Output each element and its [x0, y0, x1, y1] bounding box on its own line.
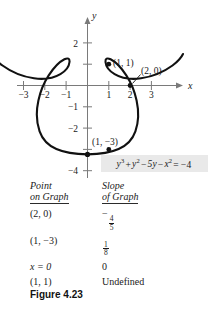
label-point-2-0: (2, 0) [141, 66, 162, 77]
row0-slope-sign: − [102, 208, 108, 219]
x-tick-label-1: 1 [106, 90, 111, 100]
row2-point: x = 0 [30, 257, 102, 273]
marker-point-1-neg3 [106, 147, 111, 152]
header-slope-line2: of Graph [102, 192, 138, 205]
table-header-point: Point on Graph [30, 181, 102, 204]
x-axis-arrow [176, 83, 183, 89]
header-slope-line1: Slope [102, 181, 202, 192]
x-tick-label--3: −3 [18, 90, 28, 100]
row1-slope: 18 [102, 231, 202, 257]
marker-point-1-1 [106, 62, 111, 67]
row2-slope: 0 [102, 257, 202, 273]
y-axis-arrow [85, 17, 91, 24]
row3-point: (1, 1) [30, 272, 102, 288]
y-tick-label--4: −4 [68, 166, 78, 176]
point-labels-group: (1, 1) (2, 0) (1, −3) [92, 58, 162, 148]
label-point-1-neg3: (1, −3) [92, 137, 118, 148]
x-tick-label-2: 2 [128, 90, 133, 100]
row3-slope: Undefined [102, 272, 202, 288]
table-header-slope: Slope of Graph [102, 181, 202, 204]
y-tick-label--1: −1 [68, 102, 78, 112]
header-point-line2: on Graph [30, 192, 69, 205]
table-row: (2, 0) −45 [30, 204, 210, 231]
slope-table: Point on Graph Slope of Graph (2, 0) −45… [30, 181, 210, 288]
graph-canvas: −3 −2 −1 1 2 3 2 −1 −2 −4 x y [0, 0, 215, 185]
table-header-row: Point on Graph Slope of Graph [30, 181, 210, 204]
figure-caption: Figure 4.23 [30, 289, 83, 300]
row1-point: (1, −3) [30, 231, 102, 247]
equation-text: y3+y2−5y−x2=−4 [117, 157, 193, 169]
header-point-line1: Point [30, 181, 102, 192]
row0-slope: −45 [102, 204, 202, 231]
x-axis-label: x [187, 80, 193, 91]
y-tick-label--2: −2 [68, 124, 78, 134]
x-tick-label--1: −1 [61, 90, 71, 100]
table-row: x = 0 0 [30, 257, 210, 273]
table-row: (1, −3) 18 [30, 231, 210, 257]
marker-point-0-bottom [85, 152, 90, 157]
y-axis-label: y [91, 10, 97, 21]
y-tick-label-2: 2 [73, 39, 78, 49]
table-row: (1, 1) Undefined [30, 272, 210, 288]
row0-point: (2, 0) [30, 204, 102, 220]
figure-4-23: −3 −2 −1 1 2 3 2 −1 −2 −4 x y [0, 0, 215, 312]
equation-callout: y3+y2−5y−x2=−4 [101, 155, 208, 172]
x-tick-label-3: 3 [149, 90, 154, 100]
row0-slope-fraction: 45 [109, 215, 115, 231]
row1-slope-fraction: 18 [103, 241, 109, 257]
marker-point-2-0 [128, 83, 133, 88]
label-point-1-1: (1, 1) [113, 58, 134, 69]
